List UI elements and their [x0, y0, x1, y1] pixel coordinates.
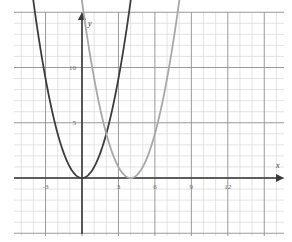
x-tick-label: -3	[43, 183, 49, 191]
coordinate-plane: y x -336912 510	[0, 0, 292, 242]
x-axis-label: x	[275, 161, 280, 170]
x-tick-label: 6	[153, 183, 157, 191]
x-tick-label: 9	[190, 183, 194, 191]
y-tick-label: 10	[69, 64, 77, 72]
x-axis	[14, 174, 284, 182]
y-axis-label: y	[87, 19, 92, 28]
parabola-graph: y x -336912 510	[0, 0, 292, 242]
y-tick-label: 5	[73, 119, 77, 127]
graph-screenshot: y x -336912 510	[0, 0, 292, 242]
x-tick-label: 12	[224, 183, 232, 191]
x-tick-label: 3	[117, 183, 121, 191]
